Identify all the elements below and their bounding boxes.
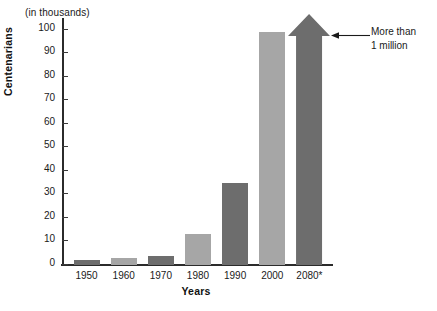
y-tick-label: 60 [25,116,55,128]
x-axis-label-2080: 2080* [291,270,328,282]
y-tick-40: 40 [62,170,68,171]
annotation-arrow-icon [331,31,371,40]
y-tick-20: 20 [62,217,68,218]
annotation-line-1: More than [371,25,416,39]
x-axis-label-1990: 1990 [217,270,254,282]
annotation-line-2: 1 million [371,39,416,53]
y-axis-line [62,18,64,265]
y-tick-label: 90 [25,45,55,57]
y-tick-label: 100 [25,22,55,34]
annotation-more-than-1-million: More than 1 million [371,25,416,52]
bar-1950 [74,260,100,265]
y-tick-label: 40 [25,163,55,175]
x-axis-label-1950: 1950 [68,270,105,282]
y-tick-30: 30 [62,193,68,194]
y-tick-label: 70 [25,92,55,104]
y-tick-100: 100 [62,29,68,30]
y-tick-label: 10 [25,233,55,245]
y-tick-80: 80 [62,76,68,77]
bar-1990 [222,183,248,265]
y-tick-label: 80 [25,69,55,81]
x-axis-label-1960: 1960 [105,270,142,282]
bar-1980 [185,234,211,265]
y-axis-unit-note: (in thousands) [25,7,90,18]
y-tick-70: 70 [62,99,68,100]
y-tick-label: 50 [25,139,55,151]
y-tick-label: 30 [25,186,55,198]
centenarians-bar-chart: (in thousands) Centenarians 010203040506… [0,0,437,311]
bar-2000 [259,32,285,265]
y-tick-60: 60 [62,123,68,124]
x-axis-label-1970: 1970 [142,270,179,282]
bar-2080-arrow [288,14,330,265]
bar-1970 [148,256,174,265]
y-tick-90: 90 [62,52,68,53]
y-axis-title: Centenarians [2,27,14,96]
x-axis-label-1980: 1980 [179,270,216,282]
y-tick-label: 0 [25,257,55,269]
y-tick-label: 20 [25,210,55,222]
y-tick-0: 0 [62,264,68,265]
plot-area: 0102030405060708090100 19501960197019801… [62,18,330,265]
x-axis-label-2000: 2000 [254,270,291,282]
y-tick-50: 50 [62,146,68,147]
y-tick-10: 10 [62,240,68,241]
x-axis-title: Years [62,285,330,297]
bar-1960 [111,258,137,265]
